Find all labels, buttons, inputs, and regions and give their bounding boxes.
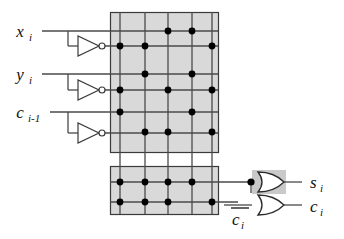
and-dot [189,109,196,116]
or-dot [142,199,149,206]
inverters [78,36,105,143]
and-dot [165,129,172,136]
output-lines [284,182,302,205]
input-label-y-base: y [14,65,24,84]
and-dot [189,28,196,35]
figure-canvas: x i y i c i-1 s i c i c i [0,0,344,239]
input-label-c-sub: i-1 [28,112,40,124]
and-dot [165,87,172,94]
and-dot [117,43,124,50]
and-dot [189,71,196,78]
output-label-c-sub: i [320,206,323,218]
output-label-c-base: c [310,197,318,216]
or-plane-box [111,167,219,215]
inverter-y-icon [78,80,99,100]
or-gate-carry[interactable] [258,195,284,215]
input-label-y-sub: i [29,74,32,86]
output-label-s-base: s [310,173,317,192]
input-label-x-base: x [15,22,24,41]
and-dot [209,87,216,94]
and-dot [209,43,216,50]
or-dot [165,199,172,206]
inverter-x-bubble [99,43,105,49]
input-label-x-sub: i [29,31,32,43]
and-dot [209,129,216,136]
carry-feedback-label-base: c [232,210,240,229]
carry-feedback-label-sub: i [241,219,244,231]
or-dot [117,179,124,186]
or-dot [117,199,124,206]
and-dot [142,43,149,50]
and-dot [165,28,172,35]
inverter-c-icon [78,123,99,143]
or-gate-carry-body [258,195,284,215]
sum-input-junction-dot [247,178,254,185]
and-dot [117,87,124,94]
and-plane-box [111,13,219,153]
input-label-c-base: c [16,103,24,122]
inverter-x-icon [78,36,99,56]
or-dot [142,179,149,186]
inverter-c-bubble [99,130,105,136]
or-dot [165,179,172,186]
and-dot [117,109,124,116]
inverter-y-bubble [99,87,105,93]
or-dot [189,179,196,186]
circuit-diagram-svg: x i y i c i-1 s i c i c i [0,0,344,239]
or-dot [209,199,216,206]
and-dot [142,71,149,78]
and-dot [142,129,149,136]
output-label-s-sub: i [320,182,323,194]
